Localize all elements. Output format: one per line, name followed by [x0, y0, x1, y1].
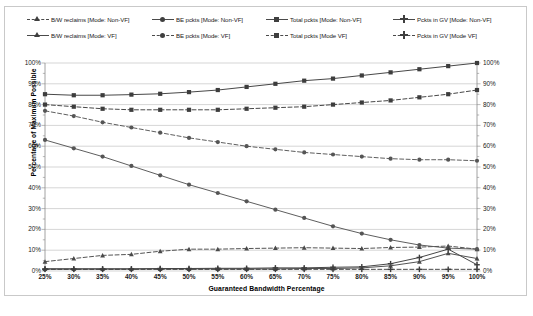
y-axis-tick-label-right: 100% — [483, 59, 515, 66]
legend-item-be-pckts-vf[interactable]: BE pckts [Mode: VF] — [152, 28, 230, 43]
legend-item-pckts-in-gv-non-vf[interactable]: Pckts in GV [Mode: Non-VF] — [393, 12, 491, 27]
square-marker-icon — [129, 108, 133, 112]
circle-marker-icon — [72, 146, 76, 150]
square-marker-icon — [187, 108, 191, 112]
y-axis-tick-label-left: 50% — [11, 163, 41, 170]
series-5 — [43, 109, 479, 163]
y-axis-tick-label-right: 40% — [483, 184, 515, 191]
circle-marker-icon — [158, 173, 162, 177]
y-axis-tick-label-right: 90% — [483, 80, 515, 87]
square-marker-icon — [216, 108, 220, 112]
triangle-marker-icon — [27, 15, 49, 24]
legend-item-pckts-in-gv-vf[interactable]: Pckts in GV [Mode VF] — [393, 28, 477, 43]
square-marker-icon — [417, 67, 421, 71]
circle-marker-icon — [72, 114, 76, 118]
triangle-marker-icon — [27, 31, 49, 40]
legend-item-bw-reclaims-vf[interactable]: B/W reclaims [Mode: VF] — [27, 28, 117, 43]
square-marker-icon — [43, 103, 47, 107]
circle-marker-icon — [43, 138, 47, 142]
square-marker-icon — [216, 88, 220, 92]
series-2 — [43, 61, 479, 97]
square-marker-icon — [417, 95, 421, 99]
square-marker-icon — [273, 106, 277, 110]
series-1 — [43, 138, 479, 251]
chart-frame: B/W reclaims [Mode: Non-VF] BE pckts [Mo… — [4, 6, 527, 296]
circle-marker-icon — [331, 152, 335, 156]
legend-item-bw-reclaims-non-vf[interactable]: B/W reclaims [Mode: Non-VF] — [27, 12, 129, 27]
legend-row-non-vf: B/W reclaims [Mode: Non-VF] BE pckts [Mo… — [11, 12, 522, 27]
legend-label: Total pckts [Mode VF] — [290, 32, 347, 39]
chart-page: B/W reclaims [Mode: Non-VF] BE pckts [Mo… — [0, 0, 533, 316]
legend-label: Pckts in GV [Mode VF] — [417, 32, 477, 39]
square-marker-icon — [475, 88, 479, 92]
y-axis-tick-label-left: 30% — [11, 205, 41, 212]
circle-marker-icon — [129, 164, 133, 168]
square-marker-icon — [72, 105, 76, 109]
x-axis-tick-label: 100% — [460, 273, 494, 281]
plot-area — [45, 63, 477, 271]
square-marker-icon — [245, 85, 249, 89]
series-0 — [43, 244, 480, 264]
square-marker-icon — [389, 98, 393, 102]
circle-marker-icon — [302, 150, 306, 154]
circle-marker-icon — [158, 131, 162, 135]
circle-marker-icon — [129, 125, 133, 129]
square-marker-icon — [72, 93, 76, 97]
y-axis-tick-label-right: 10% — [483, 246, 515, 253]
square-marker-icon — [158, 108, 162, 112]
circle-marker-icon — [475, 247, 479, 251]
square-marker-icon — [446, 64, 450, 68]
square-marker-icon — [101, 107, 105, 111]
square-marker-icon — [101, 93, 105, 97]
circle-marker-icon — [389, 238, 393, 242]
y-axis-tick-label-left: 80% — [11, 101, 41, 108]
circle-marker-icon — [101, 155, 105, 159]
legend-label: Total pckts [Mode: Non-VF] — [290, 16, 361, 23]
y-axis-tick-label-left: 100% — [11, 59, 41, 66]
plus-marker-icon — [393, 31, 415, 40]
circle-marker-icon — [187, 183, 191, 187]
legend-row-vf: B/W reclaims [Mode: VF] BE pckts [Mode: … — [11, 28, 522, 43]
triangle-marker-icon — [446, 251, 451, 256]
square-marker-icon — [360, 100, 364, 104]
square-marker-icon — [158, 92, 162, 96]
square-marker-icon — [187, 90, 191, 94]
circle-marker-icon — [187, 136, 191, 140]
x-axis-title: Guaranteed Bandwidth Percentage — [5, 285, 528, 292]
square-marker-icon — [302, 79, 306, 83]
square-marker-icon — [266, 31, 288, 40]
y-axis-tick-label-left: 20% — [11, 225, 41, 232]
legend-item-total-pckts-vf[interactable]: Total pckts [Mode VF] — [266, 28, 347, 43]
circle-marker-icon — [360, 231, 364, 235]
circle-marker-icon — [245, 199, 249, 203]
plot-svg — [45, 63, 477, 271]
chart-legend: B/W reclaims [Mode: Non-VF] BE pckts [Mo… — [11, 11, 522, 47]
y-axis-tick-label-left: 10% — [11, 246, 41, 253]
square-marker-icon — [273, 82, 277, 86]
y-axis-tick-label-right: 30% — [483, 205, 515, 212]
y-axis-tick-label-right: 20% — [483, 225, 515, 232]
y-axis-tick-label-left: 90% — [11, 80, 41, 87]
legend-label: BE pckts [Mode: VF] — [176, 32, 230, 39]
y-axis-tick-label-right: 50% — [483, 163, 515, 170]
circle-marker-icon — [152, 15, 174, 24]
circle-marker-icon — [152, 31, 174, 40]
circle-marker-icon — [302, 216, 306, 220]
legend-label: Pckts in GV [Mode: Non-VF] — [417, 16, 491, 23]
square-marker-icon — [302, 105, 306, 109]
y-axis-tick-label-left: 60% — [11, 142, 41, 149]
circle-marker-icon — [216, 191, 220, 195]
y-axis-tick-label-left: 70% — [11, 121, 41, 128]
square-marker-icon — [331, 77, 335, 81]
legend-item-total-pckts-non-vf[interactable]: Total pckts [Mode: Non-VF] — [266, 12, 361, 27]
legend-item-be-pckts-non-vf[interactable]: BE pckts [Mode: Non-VF] — [152, 12, 243, 27]
legend-label: BE pckts [Mode: Non-VF] — [176, 16, 243, 23]
series-6 — [43, 88, 479, 112]
plus-marker-icon — [393, 15, 415, 24]
square-marker-icon — [446, 92, 450, 96]
circle-marker-icon — [216, 140, 220, 144]
circle-marker-icon — [417, 243, 421, 247]
y-axis-tick-label-right: 60% — [483, 142, 515, 149]
y-axis-tick-label-right: 70% — [483, 121, 515, 128]
circle-marker-icon — [417, 158, 421, 162]
